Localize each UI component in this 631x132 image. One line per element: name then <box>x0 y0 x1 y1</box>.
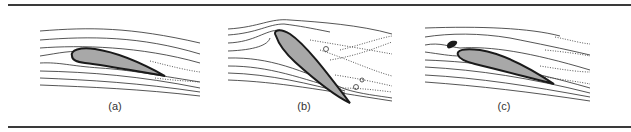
caption-b: (b) <box>284 100 324 112</box>
caption-c: (c) <box>484 100 524 112</box>
airfoil-b <box>275 30 350 103</box>
airfoil-flow-diagram <box>0 0 631 132</box>
caption-a: (a) <box>95 100 135 112</box>
